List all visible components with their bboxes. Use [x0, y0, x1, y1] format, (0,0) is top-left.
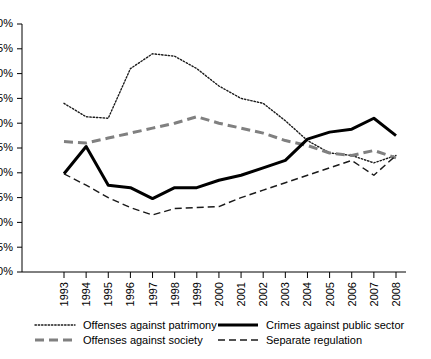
legend-label: Offenses against society [83, 334, 203, 346]
legend-label: Crimes against public sector [266, 319, 405, 331]
x-axis-tick-label: 2007 [368, 282, 380, 306]
y-axis-tick-label: 25% [0, 141, 13, 153]
y-axis-tick-label: 30% [0, 117, 13, 129]
y-axis-tick-label: 40% [0, 67, 13, 79]
y-axis-ticks: 0%5%10%15%20%25%30%35%40%45%50% [0, 17, 22, 277]
series-line-0 [64, 54, 396, 163]
x-axis-tick-label: 1997 [147, 282, 159, 306]
x-axis-tick-label: 1999 [191, 282, 203, 306]
x-axis-tick-label: 2001 [235, 282, 247, 306]
x-axis-tick-label: 2002 [257, 282, 269, 306]
x-axis-tick-label: 1995 [102, 282, 114, 306]
x-axis-tick-label: 1993 [58, 282, 70, 306]
line-chart: 0%5%10%15%20%25%30%35%40%45%50% 19931994… [0, 0, 431, 359]
x-axis-tick-label: 1996 [124, 282, 136, 306]
y-axis-tick-label: 50% [0, 17, 13, 29]
chart-container: 0%5%10%15%20%25%30%35%40%45%50% 19931994… [0, 0, 431, 359]
chart-legend: Offenses against patrimonyCrimes against… [35, 319, 405, 346]
x-axis-tick-label: 1998 [169, 282, 181, 306]
x-axis-tick-label: 2003 [279, 282, 291, 306]
x-axis-tick-label: 2008 [390, 282, 402, 306]
x-axis-tick-label: 2004 [301, 282, 313, 306]
legend-label: Separate regulation [266, 334, 362, 346]
y-axis-tick-label: 20% [0, 166, 13, 178]
x-axis-tick-label: 1994 [80, 282, 92, 306]
x-axis-ticks: 1993199419951996199719981999200020012002… [58, 272, 402, 306]
series-line-2 [64, 118, 396, 198]
x-axis-tick-label: 2006 [346, 282, 358, 306]
data-series-group [64, 54, 396, 215]
legend-label: Offenses against patrimony [83, 319, 217, 331]
y-axis-tick-label: 0% [0, 265, 13, 277]
y-axis-tick-label: 45% [0, 42, 13, 54]
series-line-1 [64, 117, 396, 158]
y-axis-tick-label: 35% [0, 92, 13, 104]
y-axis-tick-label: 5% [0, 241, 13, 253]
y-axis-tick-label: 10% [0, 216, 13, 228]
x-axis-tick-label: 2000 [213, 282, 225, 306]
y-axis-tick-label: 15% [0, 191, 13, 203]
x-axis-tick-label: 2005 [324, 282, 336, 306]
